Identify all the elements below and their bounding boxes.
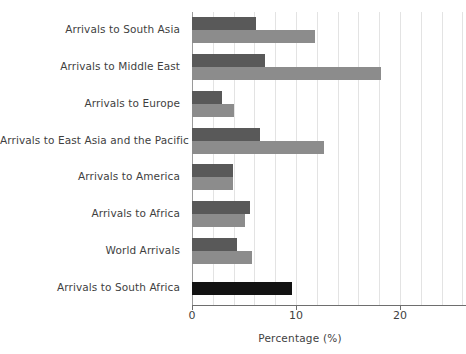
category-label: Arrivals to Middle East: [0, 61, 180, 72]
bar-dark: [192, 201, 250, 214]
bar-dark: [192, 17, 256, 30]
gridline: [400, 12, 401, 306]
bar-dark: [192, 91, 222, 104]
bar-light: [192, 30, 315, 43]
category-label: Arrivals to America: [0, 171, 180, 182]
x-axis-line: [192, 305, 466, 306]
bar-light: [192, 251, 252, 264]
gridline: [421, 12, 422, 306]
plot-area: [192, 12, 466, 306]
bar-highlight: [192, 282, 292, 295]
gridline: [317, 12, 318, 306]
bar-light: [192, 67, 381, 80]
category-axis-labels: Arrivals to South Asia Arrivals to Middl…: [0, 12, 186, 306]
gridline: [296, 12, 297, 306]
bar-dark: [192, 164, 233, 177]
x-axis-tick-label: 10: [289, 310, 303, 321]
category-label: Arrivals to East Asia and the Pacific: [0, 135, 180, 146]
bar-light: [192, 141, 324, 154]
x-axis-title: Percentage (%): [192, 332, 408, 344]
bar-dark: [192, 54, 265, 67]
bar-light: [192, 177, 233, 190]
bar-light: [192, 214, 245, 227]
bar-dark: [192, 238, 237, 251]
bar-dark: [192, 128, 260, 141]
bar-chart: Arrivals to South Asia Arrivals to Middl…: [0, 0, 466, 354]
gridline: [358, 12, 359, 306]
category-label: World Arrivals: [0, 245, 180, 256]
category-label: Arrivals to South Asia: [0, 24, 180, 35]
category-label: Arrivals to Europe: [0, 98, 180, 109]
category-label: Arrivals to Africa: [0, 208, 180, 219]
gridline: [275, 12, 276, 306]
bar-light: [192, 104, 234, 117]
gridline: [442, 12, 443, 306]
x-axis-tick-labels: 01020: [192, 310, 466, 326]
gridline: [379, 12, 380, 306]
gridline: [338, 12, 339, 306]
x-axis-tick-label: 20: [393, 310, 407, 321]
x-axis-tick-label: 0: [189, 310, 196, 321]
gridline: [462, 12, 463, 306]
category-label: Arrivals to South Africa: [0, 282, 180, 293]
